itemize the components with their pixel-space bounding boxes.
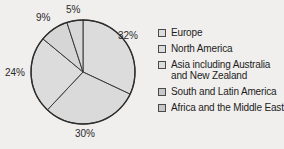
slice-value-label-europe: 32% — [118, 30, 138, 41]
legend-swatch-icon — [158, 45, 166, 53]
legend-item-label: Europe — [171, 27, 202, 38]
legend-item[interactable]: North America — [158, 43, 284, 54]
legend-item-label: South and Latin America — [171, 86, 277, 97]
legend-item[interactable]: Africa and the Middle East — [158, 102, 284, 113]
legend-item-label: Africa and the Middle East — [171, 102, 284, 113]
legend-swatch-icon — [158, 29, 166, 37]
legend-item[interactable]: Asia including Australiaand New Zealand — [158, 59, 284, 81]
slice-value-label-north-america: 30% — [75, 128, 95, 139]
legend-swatch-icon — [158, 104, 166, 112]
legend-swatch-icon — [158, 61, 166, 69]
legend-item-label: Asia including Australiaand New Zealand — [171, 59, 270, 81]
slice-value-label-south-latin-america: 9% — [36, 12, 50, 23]
slice-value-label-africa-middle-east: 5% — [66, 4, 80, 15]
chart-legend: EuropeNorth AmericaAsia including Austra… — [158, 27, 284, 118]
legend-item[interactable]: South and Latin America — [158, 86, 284, 97]
slice-value-label-asia: 24% — [5, 67, 25, 78]
legend-item-label: North America — [171, 43, 232, 54]
legend-item[interactable]: Europe — [158, 27, 284, 38]
pie-chart-figure: 32% 30% 24% 9% 5% EuropeNorth AmericaAsi… — [0, 0, 284, 149]
legend-swatch-icon — [158, 88, 166, 96]
